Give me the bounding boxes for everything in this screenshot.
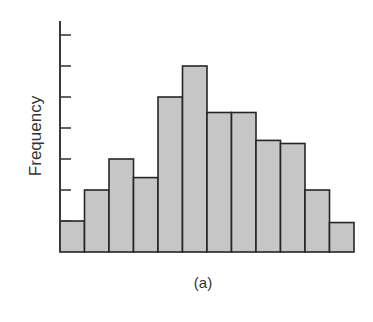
histogram-bar — [232, 113, 257, 253]
histogram-bar — [281, 144, 306, 253]
histogram-bar — [330, 223, 355, 252]
y-ticks — [60, 35, 71, 221]
bars-group — [60, 66, 354, 252]
chart-caption: (a) — [194, 274, 212, 291]
histogram-bar — [109, 159, 134, 252]
histogram-bar — [305, 190, 330, 252]
histogram-bar — [134, 178, 159, 252]
histogram-bar — [207, 113, 232, 253]
histogram-bar — [183, 66, 208, 252]
histogram-bar — [85, 190, 110, 252]
histogram-chart: Frequency (a) — [0, 0, 373, 322]
histogram-bar — [256, 140, 281, 252]
histogram-bar — [158, 97, 183, 252]
histogram-bar — [60, 221, 85, 252]
y-axis-label: Frequency — [26, 95, 45, 176]
